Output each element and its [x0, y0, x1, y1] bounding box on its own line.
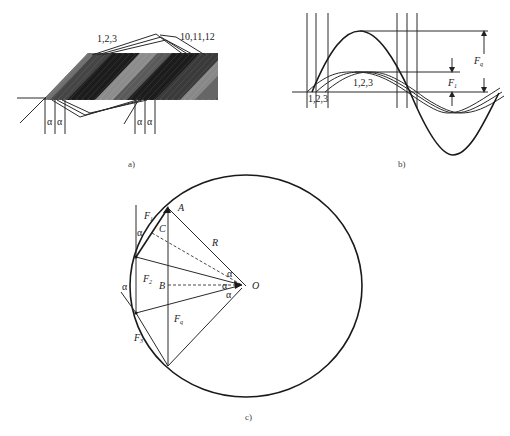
arrowhead-O — [234, 281, 242, 289]
label-B: B — [159, 280, 165, 291]
alpha-center-1: α — [227, 268, 233, 279]
alpha-label: α — [47, 116, 53, 127]
alpha-tangent-bottom: α — [122, 281, 128, 292]
radius-OA — [168, 208, 246, 286]
label-Fq: Fq — [173, 313, 183, 325]
figure-a-winding: α α α α 1,2,3 10,11,12 a) — [17, 31, 260, 169]
alpha-tangent-top: α — [137, 227, 143, 238]
label-F2: F2 — [142, 273, 152, 285]
sine-resultant — [312, 31, 499, 155]
tangent-slanted — [121, 292, 136, 313]
caption-b: b) — [398, 159, 406, 169]
alpha-label: α — [57, 116, 63, 127]
fq-label: Fq — [473, 55, 483, 67]
caption-a: a) — [128, 159, 135, 169]
f1-label: F1 — [447, 77, 457, 89]
base-label: 1,2,3 — [308, 93, 328, 104]
alpha-label: α — [147, 116, 153, 127]
coil-label-right: 10,11,12 — [180, 31, 215, 42]
figure-b-mmf: Fq F1 1,2,3 1,2,3 b) — [292, 13, 504, 169]
label-R: R — [211, 237, 218, 248]
label-A: A — [177, 202, 185, 213]
node-2 — [134, 255, 137, 258]
node-3 — [134, 311, 137, 314]
alpha-center-3: α — [226, 289, 232, 300]
caption-c: c) — [245, 412, 252, 422]
figure-c-phasor: A C B O R F1 F2 F3 Fq α α α α α c) — [121, 175, 362, 422]
coil-label-left: 1,2,3 — [97, 33, 117, 44]
figure-root: α α α α 1,2,3 10,11,12 a) — [0, 0, 510, 436]
alpha-label: α — [137, 116, 143, 127]
peak-label: 1,2,3 — [353, 77, 373, 88]
diagram-canvas: α α α α 1,2,3 10,11,12 a) — [0, 0, 510, 436]
lead-diagonal-left — [20, 97, 46, 123]
label-O: O — [252, 280, 259, 291]
label-F1: F1 — [143, 210, 153, 222]
label-C: C — [159, 223, 166, 234]
